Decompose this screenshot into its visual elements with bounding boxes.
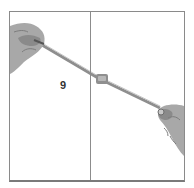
step-number: 9 xyxy=(60,79,66,91)
illustration-frame: 9 xyxy=(9,11,185,182)
pulling-string-illustration xyxy=(10,12,184,180)
knot-icon xyxy=(96,74,108,84)
right-hand-icon xyxy=(158,105,184,157)
string-right xyxy=(106,82,160,108)
left-hand-icon xyxy=(10,23,45,74)
panel-divider xyxy=(90,12,91,180)
string-right-highlight xyxy=(106,80,160,106)
